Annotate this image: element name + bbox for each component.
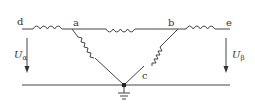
node-label-b: b <box>168 17 174 28</box>
voltage-label-u-alpha: Uα <box>14 49 27 62</box>
inductor-a-b <box>106 29 135 32</box>
wire-b-c-2 <box>124 66 144 85</box>
wire-a-c-2 <box>95 58 124 85</box>
node-label-a: a <box>73 17 79 28</box>
inductor-d-a <box>33 26 62 29</box>
node-label-c: c <box>142 70 148 81</box>
inductor-b-e <box>186 26 215 29</box>
wire-b-c-1 <box>160 29 178 47</box>
arrow-down-icon-right <box>224 38 229 73</box>
node-label-e: e <box>226 17 232 28</box>
circuit-diagram: d a b e c Uα Uβ <box>0 0 255 111</box>
node-label-d: d <box>17 16 24 27</box>
inductor-a-c <box>78 37 94 58</box>
voltage-label-u-beta: Uβ <box>232 49 244 62</box>
junction-dot <box>122 83 126 87</box>
ground-icon <box>118 87 130 99</box>
wire-a-c-1 <box>72 29 78 37</box>
inductor-b-c <box>152 47 162 66</box>
